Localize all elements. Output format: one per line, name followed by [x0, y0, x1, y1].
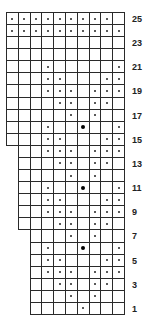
purl-dot-icon [47, 259, 49, 261]
purl-dot-icon [47, 187, 49, 189]
purl-dot-icon [106, 259, 108, 261]
row-number-label: 21 [132, 61, 142, 73]
purl-dot-icon [70, 102, 72, 104]
stitch-cell [112, 217, 125, 230]
purl-dot-icon [106, 223, 108, 225]
purl-dot-icon [118, 66, 120, 68]
purl-dot-icon [106, 150, 108, 152]
row-number-label: 9 [132, 206, 137, 218]
purl-dot-icon [70, 175, 72, 177]
purl-dot-icon [47, 211, 49, 213]
stitch-cell [112, 145, 125, 158]
purl-dot-icon [106, 211, 108, 213]
purl-dot-icon [70, 90, 72, 92]
purl-dot-icon [118, 30, 120, 32]
purl-dot-icon [94, 114, 96, 116]
stitch-cell [112, 24, 125, 37]
purl-dot-icon [70, 18, 72, 20]
purl-dot-icon [70, 162, 72, 164]
bobble-icon [81, 125, 85, 129]
purl-dot-icon [59, 271, 61, 273]
purl-dot-icon [118, 259, 120, 261]
purl-dot-icon [23, 30, 25, 32]
purl-dot-icon [118, 90, 120, 92]
row-number-label: 19 [132, 85, 142, 97]
bobble-icon [81, 186, 85, 190]
row-number-label: 13 [132, 158, 142, 170]
row-number-label: 3 [132, 279, 137, 291]
purl-dot-icon [106, 162, 108, 164]
purl-dot-icon [70, 223, 72, 225]
purl-dot-icon [118, 150, 120, 152]
purl-dot-icon [59, 283, 61, 285]
row-number-label: 5 [132, 255, 137, 267]
purl-dot-icon [47, 150, 49, 152]
purl-dot-icon [59, 162, 61, 164]
row-number-label: 17 [132, 110, 142, 122]
row-number-label: 25 [132, 13, 142, 25]
stitch-cell [112, 109, 125, 122]
purl-dot-icon [106, 18, 108, 20]
purl-dot-icon [11, 30, 13, 32]
purl-dot-icon [59, 259, 61, 261]
stitch-cell [112, 302, 125, 315]
stitch-cell [112, 278, 125, 291]
row-number-label: 1 [132, 303, 137, 315]
purl-dot-icon [106, 138, 108, 140]
purl-dot-icon [70, 150, 72, 152]
purl-dot-icon [11, 18, 13, 20]
stitch-cell [112, 193, 125, 206]
purl-dot-icon [106, 271, 108, 273]
purl-dot-icon [118, 271, 120, 273]
purl-dot-icon [70, 235, 72, 237]
purl-dot-icon [82, 18, 84, 20]
stitch-cell [112, 72, 125, 85]
purl-dot-icon [82, 30, 84, 32]
purl-dot-icon [94, 18, 96, 20]
row-number-label: 11 [132, 182, 142, 194]
purl-dot-icon [47, 199, 49, 201]
purl-dot-icon [118, 211, 120, 213]
purl-dot-icon [59, 223, 61, 225]
stitch-cell [112, 242, 125, 255]
purl-dot-icon [106, 199, 108, 201]
purl-dot-icon [47, 271, 49, 273]
stitch-cell [112, 12, 125, 25]
purl-dot-icon [94, 271, 96, 273]
stitch-cell [112, 254, 125, 267]
stitch-cell [112, 84, 125, 97]
purl-dot-icon [94, 162, 96, 164]
purl-dot-icon [94, 30, 96, 32]
purl-dot-icon [59, 78, 61, 80]
stitch-cell [112, 266, 125, 279]
stitch-cell [112, 157, 125, 170]
stitch-cell [112, 121, 125, 134]
purl-dot-icon [94, 102, 96, 104]
purl-dot-icon [94, 150, 96, 152]
purl-dot-icon [118, 199, 120, 201]
purl-dot-icon [47, 30, 49, 32]
purl-dot-icon [59, 30, 61, 32]
stitch-cell [112, 36, 125, 49]
purl-dot-icon [70, 30, 72, 32]
purl-dot-icon [70, 271, 72, 273]
purl-dot-icon [47, 66, 49, 68]
stitch-cell [112, 97, 125, 110]
stitch-cell [112, 60, 125, 73]
purl-dot-icon [94, 223, 96, 225]
purl-dot-icon [59, 90, 61, 92]
purl-dot-icon [82, 307, 84, 309]
row-number-label: 7 [132, 230, 137, 242]
purl-dot-icon [94, 295, 96, 297]
purl-dot-icon [59, 150, 61, 152]
purl-dot-icon [106, 102, 108, 104]
purl-dot-icon [70, 114, 72, 116]
purl-dot-icon [106, 90, 108, 92]
purl-dot-icon [118, 187, 120, 189]
purl-dot-icon [59, 102, 61, 104]
purl-dot-icon [118, 247, 120, 249]
purl-dot-icon [106, 78, 108, 80]
stitch-cell [112, 205, 125, 218]
purl-dot-icon [70, 283, 72, 285]
stitch-cell [112, 229, 125, 242]
